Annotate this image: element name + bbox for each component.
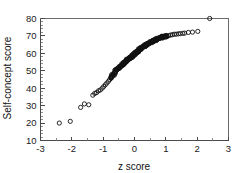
y-tick-label: 30 [26,100,37,111]
y-axis-tick-labels: 1020304050607080 [26,13,37,146]
data-point [87,103,91,107]
data-point [79,105,83,109]
y-tick-label: 70 [26,30,37,41]
x-tick-label: -2 [68,143,76,154]
x-axis-ticks [41,137,229,141]
y-tick-label: 50 [26,65,37,76]
qq-plot-figure: -3-2-10123 1020304050607080 z score Self… [0,0,240,173]
y-axis-ticks [41,19,45,141]
y-tick-label: 60 [26,48,37,59]
y-tick-label: 40 [26,83,37,94]
data-point [68,119,72,123]
x-axis-tick-labels: -3-2-10123 [36,143,231,154]
y-tick-label: 80 [26,13,37,24]
x-tick-label: -3 [36,143,44,154]
x-tick-label: 3 [226,143,231,154]
x-tick-label: 2 [195,143,200,154]
x-tick-label: 0 [132,143,137,154]
y-tick-label: 10 [26,135,37,146]
scatter-points [57,16,212,125]
x-axis-label: z score [118,161,151,172]
y-axis-label: Self-concept score [2,36,13,119]
x-tick-label: -1 [99,143,107,154]
data-point [190,30,194,34]
data-point [57,121,61,125]
y-tick-label: 20 [26,117,37,128]
chart-canvas: -3-2-10123 1020304050607080 z score Self… [0,0,240,173]
x-tick-label: 1 [163,143,168,154]
data-point [82,102,86,106]
data-point [196,29,200,33]
